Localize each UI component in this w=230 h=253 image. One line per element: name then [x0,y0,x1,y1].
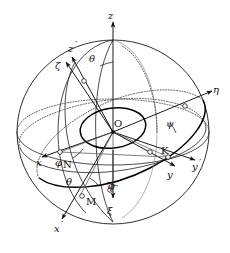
angle-arc-phi-node [73,149,83,158]
label-phi-bottom: ϕ [108,180,115,191]
axis-eta [113,91,212,132]
angle-arc-theta-top [100,62,113,66]
meridian-xi-front [96,40,113,222]
label-xi: ξ [107,205,113,216]
label-M: M [86,196,96,207]
label-theta-top: θ [89,53,95,64]
label-y: y [166,169,173,180]
label-K: K [161,145,169,156]
label-phi-node: φ [55,157,62,168]
angle-arc-theta-bottom [90,178,99,186]
point-eta-sphere-marker [183,104,188,109]
label-x-prime-mark: ′ [61,219,64,230]
label-N: N [63,159,72,170]
label-y-prime-mark: ′ [199,157,202,168]
point-zeta-sphere-marker [82,79,87,84]
label-O: O [114,118,122,129]
label-theta-bottom: θ [66,176,72,187]
point-origin-marker [111,130,115,134]
point-N-marker [58,150,63,155]
label-x-prime: x [54,223,60,234]
label-y-prime: y [191,161,198,172]
label-z: z [107,10,114,21]
point-K-alt-marker [148,150,153,155]
label-eta: η [213,84,219,95]
axis-z-prime [72,57,113,132]
euler-angle-diagram: z z ′ ζ θ η ψ K x φ N θ ϕ M ξ y y ′ x ′ … [0,0,230,253]
label-psi: ψ [166,118,174,129]
diagram-canvas: z z ′ ζ θ η ψ K x φ N θ ϕ M ξ y y ′ x ′ … [0,0,230,253]
label-zeta: ζ [55,60,61,71]
label-z-prime: z [67,43,74,54]
label-z-prime-mark: ′ [75,39,78,50]
point-M-marker [80,194,85,199]
label-x: x [36,157,42,168]
